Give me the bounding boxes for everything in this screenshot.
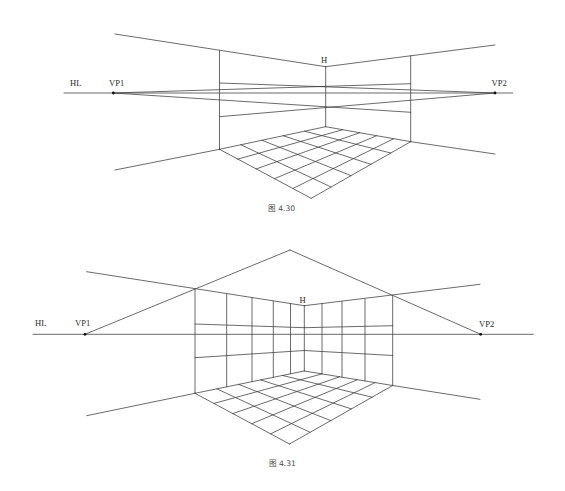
perspective-diagram-canvas: HLVP1VP2H 图 4.30 HLVP1VP2H 图 4.31: [0, 0, 565, 491]
figure-4-30-caption: 图 4.30: [268, 204, 295, 213]
floor-left-extension: [87, 393, 195, 415]
right-wall-horizontal-upper: [304, 326, 392, 328]
floor-grid-line: [195, 371, 304, 393]
vp1-label: VP1: [109, 78, 124, 88]
figure-4-30-floor-grid: [220, 127, 411, 199]
floor-grid-line: [311, 142, 411, 199]
vp1-guide-lower: [113, 93, 410, 112]
figure-4-30: HLVP1VP2H 图 4.30: [64, 34, 513, 213]
apex-to-vp2: [290, 250, 481, 334]
ceiling-right-edge: [304, 284, 480, 305]
figure-4-31-lines: [33, 250, 533, 416]
vp2-guide-upper: [220, 83, 496, 93]
floor-grid-line: [261, 380, 352, 409]
left-wall-horizontal-lower: [195, 351, 304, 358]
floor-grid-line: [271, 383, 375, 434]
vp1-point: [112, 92, 115, 95]
floor-grid-line: [262, 140, 351, 175]
figure-4-30-labels: HLVP1VP2H: [70, 55, 507, 88]
floor-right-extension: [411, 142, 495, 154]
horizon-line-label: HL: [35, 318, 46, 328]
floor-grid-line: [241, 145, 331, 187]
h-label: H: [300, 295, 306, 305]
floor-grid-line: [293, 139, 394, 189]
figure-4-31-caption: 图 4.31: [269, 459, 296, 468]
vp1-point: [84, 333, 87, 336]
figure-4-30-lines: [64, 34, 513, 170]
floor-right-extension: [393, 386, 480, 400]
vp2-point: [479, 333, 482, 336]
ceiling-left-edge: [87, 272, 305, 306]
floor-grid-line: [283, 136, 371, 165]
vp2-label: VP2: [492, 78, 507, 88]
vp2-guide-lower: [220, 93, 496, 117]
left-wall-horizontal-upper: [195, 324, 304, 328]
right-wall-horizontal-lower: [304, 351, 392, 356]
floor-grid-line: [304, 131, 390, 153]
vp2-label: VP2: [479, 319, 494, 329]
vp2-point: [494, 92, 497, 95]
horizon-line-label: HL: [70, 78, 81, 88]
figure-4-31-floor-grid: [195, 371, 393, 444]
ceiling-left-edge: [115, 34, 326, 67]
floor-grid-line: [220, 127, 326, 150]
floor-grid-line: [217, 389, 310, 432]
floor-grid-line: [239, 384, 331, 420]
h-label: H: [321, 55, 327, 65]
figure-4-31: HLVP1VP2H 图 4.31: [33, 250, 533, 468]
vp1-to-apex: [85, 250, 290, 334]
vp1-label: VP1: [75, 318, 90, 328]
floor-grid-line: [282, 375, 372, 397]
floor-left-extension: [115, 149, 220, 170]
